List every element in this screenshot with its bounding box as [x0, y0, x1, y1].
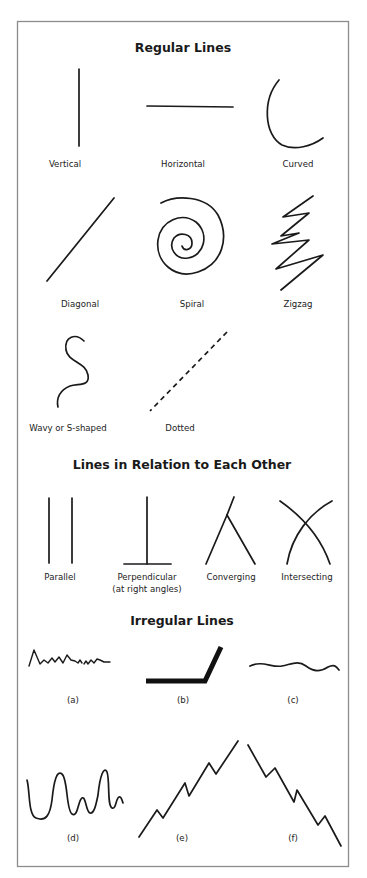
label-intersecting: Intersecting — [281, 572, 332, 582]
spiral-line-example: Spiral — [158, 198, 224, 309]
horizontal-line-example: Horizontal — [147, 106, 233, 169]
label-parallel: Parallel — [44, 572, 75, 582]
irregular-line-a: (a) — [29, 650, 110, 705]
irregular-line-f: (f) — [248, 745, 341, 846]
s-shaped-line-example: Wavy or S-shaped — [29, 337, 107, 433]
curved-line-example: Curved — [267, 80, 323, 169]
label-curved: Curved — [283, 159, 314, 169]
label-spiral: Spiral — [180, 299, 205, 309]
section-title-regular-lines: Regular Lines — [135, 40, 231, 55]
label-d: (d) — [67, 833, 79, 843]
label-dotted: Dotted — [165, 423, 194, 433]
zigzag-line-example: Zigzag — [272, 196, 323, 309]
intersecting-lines-example: Intersecting — [280, 501, 333, 582]
irregular-line-b: (b) — [146, 647, 221, 705]
dotted-line-example: Dotted — [150, 332, 227, 433]
label-b: (b) — [177, 695, 189, 705]
label-a: (a) — [67, 695, 79, 705]
label-horizontal: Horizontal — [161, 159, 205, 169]
label-zigzag: Zigzag — [284, 299, 313, 309]
label-perpendicular: Perpendicular — [117, 572, 177, 582]
label-converging: Converging — [206, 572, 255, 582]
perpendicular-lines-example: Perpendicular (at right angles) — [112, 497, 181, 594]
irregular-line-d: (d) — [27, 770, 123, 843]
vertical-line-example: Vertical — [49, 69, 81, 169]
parallel-lines-example: Parallel — [44, 498, 75, 582]
label-e: (e) — [176, 833, 188, 843]
label-f: (f) — [288, 833, 298, 843]
label-diagonal: Diagonal — [61, 299, 99, 309]
section-title-relation: Lines in Relation to Each Other — [73, 457, 292, 472]
label-c: (c) — [287, 695, 298, 705]
section-title-irregular-lines: Irregular Lines — [130, 613, 234, 628]
diagonal-line-example: Diagonal — [47, 198, 114, 309]
irregular-line-c: (c) — [250, 663, 339, 705]
label-vertical: Vertical — [49, 159, 81, 169]
line-types-diagram: Regular Lines Vertical Horizontal Curved… — [0, 0, 367, 878]
converging-lines-example: Converging — [206, 497, 256, 582]
label-perpendicular-subtitle: (at right angles) — [112, 584, 181, 594]
label-wavy-s-shaped: Wavy or S-shaped — [29, 423, 107, 433]
irregular-line-e: (e) — [139, 741, 238, 843]
